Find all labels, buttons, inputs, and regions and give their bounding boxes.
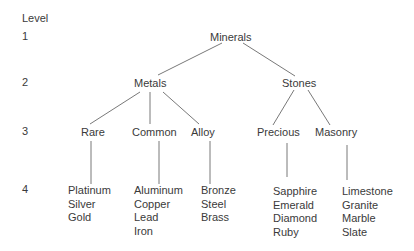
node-metals: Metals <box>134 77 166 90</box>
leaf-group-common: Aluminum Copper Lead Iron <box>134 184 183 238</box>
leaf-group-masonry: Limestone Granite Marble Slate <box>342 185 393 239</box>
leaf-item: Lead <box>134 211 183 225</box>
leaf-item: Platinum <box>68 184 111 198</box>
leaf-item: Sapphire <box>273 185 317 199</box>
node-stones: Stones <box>282 77 316 90</box>
leaf-item: Iron <box>134 225 183 239</box>
node-minerals: Minerals <box>210 31 252 44</box>
leaf-item: Copper <box>134 198 183 212</box>
leaf-group-precious: Sapphire Emerald Diamond Ruby <box>273 185 317 239</box>
level-header: Level <box>22 12 48 25</box>
leaf-item: Slate <box>342 226 393 240</box>
node-common: Common <box>132 126 177 139</box>
leaf-item: Granite <box>342 199 393 213</box>
leaf-item: Gold <box>68 211 111 225</box>
leaf-item: Bronze <box>201 184 236 198</box>
leaf-item: Marble <box>342 212 393 226</box>
level-1-label: 1 <box>22 30 28 43</box>
level-2-label: 2 <box>22 76 28 89</box>
leaf-item: Limestone <box>342 185 393 199</box>
node-precious: Precious <box>257 126 300 139</box>
leaf-item: Ruby <box>273 226 317 240</box>
leaf-group-alloy: Bronze Steel Brass <box>201 184 236 225</box>
node-alloy: Alloy <box>191 126 215 139</box>
leaf-item: Brass <box>201 211 236 225</box>
leaf-item: Steel <box>201 198 236 212</box>
node-masonry: Masonry <box>315 126 357 139</box>
node-rare: Rare <box>81 126 105 139</box>
leaf-group-rare: Platinum Silver Gold <box>68 184 111 225</box>
leaf-item: Silver <box>68 198 111 212</box>
level-4-label: 4 <box>22 183 28 196</box>
leaf-item: Aluminum <box>134 184 183 198</box>
leaf-item: Emerald <box>273 199 317 213</box>
level-3-label: 3 <box>22 125 28 138</box>
leaf-item: Diamond <box>273 212 317 226</box>
